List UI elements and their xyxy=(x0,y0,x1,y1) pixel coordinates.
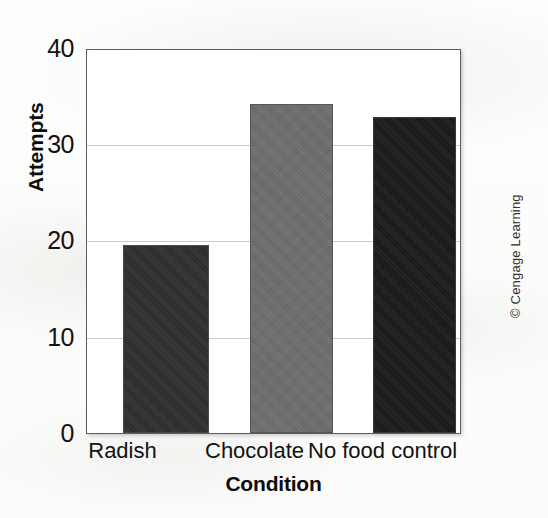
y-tick-label-30: 30 xyxy=(47,132,74,157)
x-tick-label-radish: Radish xyxy=(80,440,165,462)
x-tick-label-chocolate: Chocolate xyxy=(205,440,290,462)
y-tick-label-0: 0 xyxy=(61,421,74,446)
y-tick-label-20: 20 xyxy=(47,228,74,253)
bar-chart-figure: 40 30 20 10 0 Radish Chocolate No food c… xyxy=(0,0,548,518)
x-axis-title: Condition xyxy=(86,472,461,496)
bar-chocolate xyxy=(250,104,333,433)
y-tick-label-10: 10 xyxy=(47,325,74,350)
y-tick-label-40: 40 xyxy=(47,36,74,61)
bar-control xyxy=(373,117,456,433)
plot-area xyxy=(86,49,461,434)
copyright-credit: © Cengage Learning xyxy=(508,194,523,318)
y-axis-title: Attempts xyxy=(24,103,48,192)
bar-radish xyxy=(123,245,209,433)
x-tick-label-control: No food control xyxy=(308,440,448,462)
